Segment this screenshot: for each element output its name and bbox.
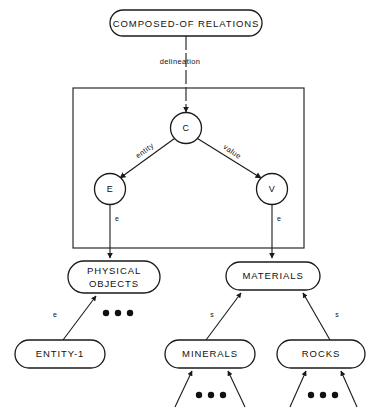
node-rocks[interactable]: ROCKS [277,340,365,368]
edge-c-to-v: value [198,139,262,179]
circle-e-label: E [107,184,114,194]
edge-e-to-physical-objects: e [110,205,119,259]
edges-rocks-children [290,371,357,407]
e-right-label: e [277,215,281,222]
circle-v-label: V [269,184,276,194]
entity1-subtype-label: e [53,311,57,318]
composed-of-relations-diagram: COMPOSED-OF RELATIONS delineation C enti… [0,0,384,411]
node-materials[interactable]: MATERIALS [226,262,320,290]
edge-c-to-e: entity [120,139,175,179]
entity-1-label: ENTITY-1 [36,348,85,359]
node-minerals[interactable]: MINERALS [165,340,255,368]
node-circle-c[interactable]: C [171,113,202,144]
rocks-child-right-line [341,371,357,407]
minerals-child-right-line [228,371,245,407]
edge-rocks-to-materials: s [303,293,339,340]
node-composed-of-relations[interactable]: COMPOSED-OF RELATIONS [110,10,262,36]
node-entity-1[interactable]: ENTITY-1 [15,340,105,368]
minerals-label: MINERALS [182,348,238,359]
e-left-label: e [115,215,119,222]
diagram-canvas: COMPOSED-OF RELATIONS delineation C enti… [0,0,384,411]
ellipsis-physical-objects [103,310,133,316]
physical-objects-label-line2: OBJECTS [89,278,139,289]
schema-group-box [73,88,304,248]
ellipsis-minerals [196,392,226,398]
node-circle-e[interactable]: E [95,174,126,205]
edge-entity1-to-physical-objects: e [53,296,96,340]
circle-c-label: C [183,123,190,133]
physical-objects-label-line1: PHYSICAL [87,265,141,276]
minerals-child-left-line [175,371,192,407]
edge-delineation: delineation [160,36,201,112]
value-edge-label: value [222,142,244,161]
edge-minerals-to-materials: s [206,293,241,340]
rocks-subtype-line [303,293,330,340]
composed-of-relations-label: COMPOSED-OF RELATIONS [113,18,259,29]
delineation-label: delineation [160,57,201,66]
materials-label: MATERIALS [242,270,303,281]
rocks-child-left-line [290,371,306,407]
edges-minerals-children [175,371,245,407]
node-physical-objects[interactable]: PHYSICAL OBJECTS [68,261,160,293]
edge-v-to-materials: e [272,205,281,259]
minerals-subtype-label: s [210,311,214,318]
entity1-subtype-line [63,296,96,340]
entity-edge-label: entity [134,141,156,160]
ellipsis-rocks [308,392,338,398]
node-circle-v[interactable]: V [257,174,288,205]
rocks-label: ROCKS [302,348,340,359]
rocks-subtype-label: s [335,311,339,318]
